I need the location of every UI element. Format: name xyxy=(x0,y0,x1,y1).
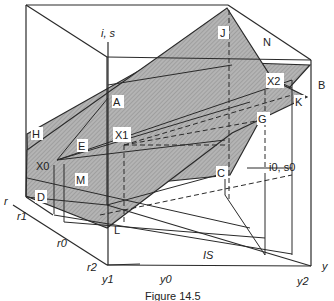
label-K: K xyxy=(295,96,303,108)
tick-r2: r2 xyxy=(87,261,97,273)
tick-r0: r0 xyxy=(57,237,68,249)
is-curve-label: IS xyxy=(203,249,214,261)
label-N: N xyxy=(263,36,271,48)
label-H: H xyxy=(32,128,40,140)
label-A: A xyxy=(113,96,121,108)
vertical-axis-label: i, s xyxy=(101,27,116,39)
label-M: M xyxy=(76,174,85,186)
label-X2: X2 xyxy=(267,75,280,87)
depth-axis-label: r xyxy=(4,195,9,207)
label-E: E xyxy=(78,140,85,152)
tick-r1: r1 xyxy=(17,210,27,222)
label-X0: X0 xyxy=(36,160,49,172)
equilibrium-label: i0, s0 xyxy=(269,161,295,173)
label-X1: X1 xyxy=(115,129,128,141)
tick-y0: y0 xyxy=(159,273,173,285)
three-dimensional-is-diagram: A J N B X2 K G H X1 E X0 M D C L i, s y … xyxy=(0,0,334,301)
label-D: D xyxy=(37,191,45,203)
label-J: J xyxy=(220,27,226,39)
label-G: G xyxy=(258,113,267,125)
figure-caption: Figure 14.5 xyxy=(145,290,201,301)
label-L: L xyxy=(114,224,120,236)
label-C: C xyxy=(217,167,225,179)
tick-y1: y1 xyxy=(101,273,114,285)
horizontal-axis-label: y xyxy=(321,260,329,272)
label-B: B xyxy=(318,79,325,91)
tick-y2: y2 xyxy=(296,275,309,287)
